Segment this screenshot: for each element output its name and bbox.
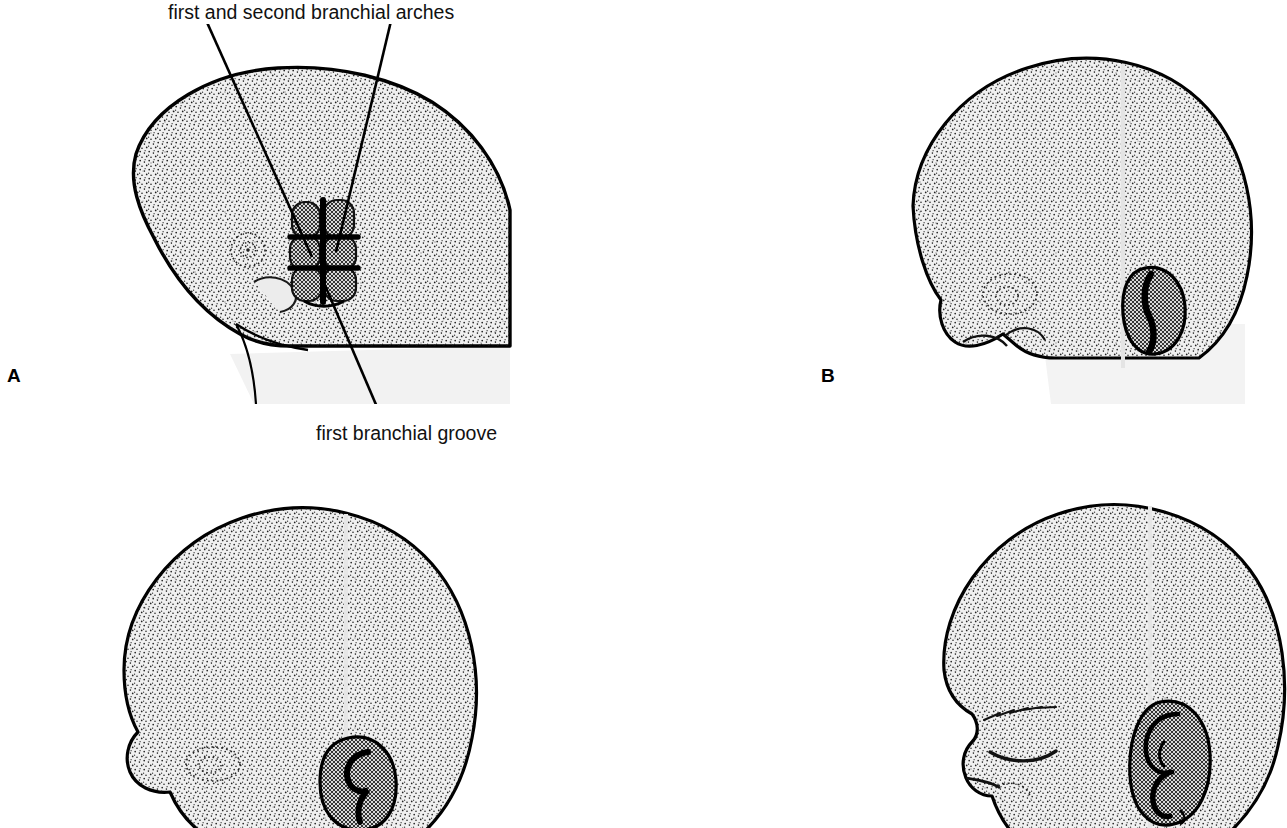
branchial-hillocks: [290, 200, 358, 306]
callout-label-branchial-groove: first branchial groove: [316, 424, 497, 444]
auricle-outline: [1130, 701, 1210, 825]
panel-c-illustration: [80, 480, 510, 828]
panel-a-illustration: [40, 24, 560, 404]
hillock-2: [324, 200, 354, 238]
head-shading: [80, 480, 510, 828]
figure-canvas: first and second branchial arches first …: [0, 0, 1287, 828]
head-shading: [860, 480, 1287, 828]
hillock-4: [324, 236, 356, 270]
mature-auricle: [1130, 701, 1210, 825]
hillock-5: [292, 267, 322, 301]
neck-fold: [230, 346, 510, 404]
callout-label-branchial-arches: first and second branchial arches: [168, 3, 454, 23]
panel-letter-a: A: [7, 366, 21, 385]
developing-auricle: [320, 737, 396, 828]
panel-d-illustration: [860, 480, 1287, 828]
panel-letter-b: B: [821, 366, 835, 385]
panel-a: [40, 24, 560, 404]
panel-d: [860, 480, 1287, 828]
panel-c: [80, 480, 510, 828]
panel-b: [855, 24, 1275, 404]
panel-b-illustration: [855, 24, 1275, 404]
early-auricle: [1123, 267, 1186, 354]
